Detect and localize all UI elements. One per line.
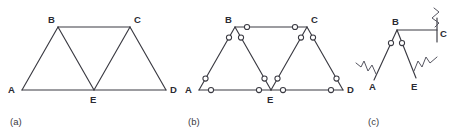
break-symbol-e-icon [414, 57, 437, 71]
panel-a: A B C D E (a) [8, 14, 177, 127]
pin-joint [388, 40, 393, 45]
node-label-c-A: A [369, 81, 376, 92]
member-c-ba [374, 30, 397, 80]
pin-joint [256, 87, 261, 92]
pin-joint [262, 76, 267, 81]
break-symbol-c-icon [432, 8, 439, 27]
node-label-b-C: C [311, 14, 318, 25]
panel-b: A B C D E (b) [185, 14, 354, 127]
node-label-a-B: B [48, 14, 55, 25]
pin-joint [226, 35, 231, 40]
pin-joint [298, 35, 303, 40]
node-label-b-D: D [347, 84, 354, 95]
pin-joint [334, 76, 339, 81]
node-label-b-A: A [185, 84, 192, 95]
pin-joint [280, 87, 285, 92]
node-label-c-C: C [440, 28, 447, 39]
pin-joint [244, 24, 249, 29]
pin-joint [399, 40, 404, 45]
node-label-a-E: E [90, 94, 96, 105]
panel-c-pins [388, 40, 404, 45]
member-a-ab [22, 27, 58, 90]
pin-joint [238, 35, 243, 40]
panel-b-pins [203, 24, 339, 92]
node-label-b-E: E [267, 94, 273, 105]
pin-joint [292, 24, 297, 29]
pin-joint [208, 87, 213, 92]
caption-a: (a) [10, 116, 22, 127]
node-label-a-C: C [134, 14, 141, 25]
pin-joint [275, 76, 280, 81]
panel-c: A B C E (c) [356, 8, 447, 127]
node-label-c-E: E [411, 81, 417, 92]
node-label-b-B: B [225, 14, 232, 25]
node-label-a-D: D [170, 84, 177, 95]
member-a-be [58, 27, 94, 90]
member-c-be [397, 30, 416, 78]
panel-a-members [22, 27, 166, 90]
panel-b-members [199, 27, 343, 90]
pin-joint [310, 35, 315, 40]
truss-figure: A B C D E (a) [0, 0, 466, 133]
node-label-c-B: B [392, 16, 399, 27]
caption-c: (c) [368, 116, 379, 127]
member-a-ce [94, 27, 130, 90]
caption-b: (b) [188, 116, 200, 127]
break-symbol-a-icon [356, 61, 376, 74]
member-a-cd [130, 27, 166, 90]
pin-joint [203, 76, 208, 81]
node-label-a-A: A [8, 84, 15, 95]
pin-joint [328, 87, 333, 92]
panel-c-members [374, 18, 437, 80]
